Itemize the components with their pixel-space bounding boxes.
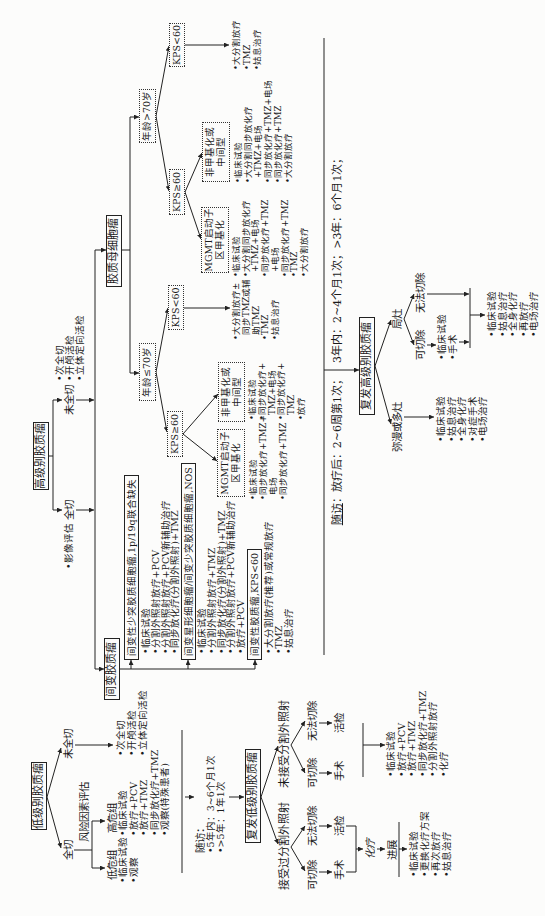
lg-non-gross-total-label: 未全切 bbox=[62, 729, 74, 759]
list-item-continuation: +TMZ+电场 bbox=[253, 80, 263, 183]
lg-prior-rt-list: •临床试验 •更换化疗方案 •再次放疗 •姑息治疗 bbox=[408, 811, 452, 877]
list-item: •临床试验 bbox=[248, 415, 258, 500]
hg-focal-label: 局灶 bbox=[391, 309, 403, 329]
hg-follow-up-text-a: ：放疗后：2~6周第1次； bbox=[331, 374, 344, 503]
lg-no-prior-rt-surgery: 手术 bbox=[333, 761, 345, 781]
list-item: •立体定向活检 bbox=[137, 690, 148, 756]
anaplastic-group-2-list: •临床试验 •分割外照射放疗+TMZ •同步放化疗(分割外照射)+TMZ •分割… bbox=[197, 500, 246, 654]
list-item: •电场治疗 bbox=[529, 291, 540, 337]
list-item: •手术 bbox=[448, 314, 459, 360]
gt70-kps-lt60-list: •大分割放疗 •TMZ •姑息治疗 bbox=[231, 20, 263, 70]
hg-diffuse-list: •临床试验 •姑息治疗 •全身化疗 •对症手术 •电场治疗 bbox=[436, 396, 489, 442]
hg-diffuse-label: 弥漫或多灶 bbox=[391, 402, 403, 452]
glioma-treatment-flowchart: 低级别胶质瘤 全切 未全切 风险因素评估 低危组 •临床试验 •观察 高危组 •… bbox=[0, 0, 545, 916]
list-item: •同步放化疗+TMZ+电场 bbox=[263, 80, 273, 183]
list-item: •同步放化疗+TMZ bbox=[278, 415, 288, 500]
hg-follow-up-text-b: 3年内：2~4个月1次；>3年：6个月1次； bbox=[331, 153, 344, 363]
list-item: •放疗+TMZ bbox=[139, 750, 150, 836]
gt70-mgmt-methylated-node: MGMT启动子 区甲基化 bbox=[201, 207, 229, 273]
list-item: •临床试验 bbox=[233, 80, 243, 183]
lg-risk-assessment-label: 风险因素评估 bbox=[78, 782, 90, 842]
anaplastic-group-3-list: •大分割放疗(推荐)或常规放疗 •TMZ •姑息治疗 bbox=[264, 521, 294, 654]
lg-no-prior-rt-unresectable: 无法切除 bbox=[306, 701, 318, 741]
hg-follow-up-part-a: 随访：放疗后：2~6周第1次； bbox=[331, 374, 344, 525]
list-item-continuation: 电场 bbox=[268, 415, 278, 500]
lg-high-risk-list: •临床试验 •放疗+PCV •放疗+TMZ •同步放化疗+TMZ •观察(特殊患… bbox=[118, 750, 171, 836]
hg-focal-list: •临床试验 •姑息治疗 •全身化疗 •再放疗 •电场治疗 bbox=[487, 291, 540, 337]
node-line: 中间型 bbox=[215, 123, 226, 181]
lg-prior-rt-chemo: 化疗 bbox=[364, 839, 376, 859]
lg-gross-total-label: 全切 bbox=[62, 840, 74, 860]
list-item: •姑息治疗 bbox=[252, 20, 263, 70]
hg-focal-unresectable: 无法切除 bbox=[414, 273, 426, 313]
list-item: •临床试验 bbox=[436, 396, 447, 442]
list-item: •同步放化疗(分割外照射)+TMZ bbox=[170, 500, 180, 654]
lg-prior-rt-biopsy: 活检 bbox=[333, 816, 345, 836]
gt70-unmethylated-list: •临床试验 •大分割同步放化疗 +TMZ+电场 •同步放化疗+TMZ+电场 •同… bbox=[233, 80, 293, 183]
le70-unmethylated-node: 非甲基化或 中间型 bbox=[218, 362, 245, 422]
le70-kps-lt60-list: •大分割放疗± 同步TMZ或辅 助TMZ •TMZ •姑息治疗 bbox=[232, 279, 281, 340]
list-item: •放疗+TMZ bbox=[407, 691, 418, 777]
le70-kps-ge60-node: KPS≥60 bbox=[167, 411, 183, 457]
recurrent-low-grade-title: 复发低级别胶质瘤 bbox=[245, 749, 261, 843]
list-item: •放疗+PCV bbox=[236, 500, 246, 654]
lg-no-prior-rt-resectable: 可切除 bbox=[306, 758, 318, 788]
list-item: •再次放疗 bbox=[430, 811, 441, 877]
gt70-kps-lt60-node: KPS<60 bbox=[169, 23, 185, 67]
le70-unmethylated-list: •临床试验 •同步放化疗+ TMZ+电场 •同步放化疗+ TMZ •放疗 bbox=[248, 363, 307, 420]
list-item: •临床试验 bbox=[437, 314, 448, 360]
list-item: •观察 bbox=[129, 837, 140, 883]
lg-prior-rt-progression: 进展 bbox=[386, 840, 398, 860]
node-line: MGMT启动子 bbox=[203, 208, 214, 272]
lg-prior-rt-surgery: 手术 bbox=[333, 860, 345, 880]
list-item: •电场治疗 bbox=[478, 396, 489, 442]
node-line: 非甲基化或 bbox=[204, 123, 215, 181]
age-le70-node: 年龄≤70岁 bbox=[139, 343, 156, 401]
list-item: •开颅活检 bbox=[126, 690, 137, 756]
hg-non-gross-total-list: •次全切 •开颅活检 •立体定向活检 bbox=[55, 315, 85, 381]
list-item: •大分割放疗 bbox=[231, 20, 242, 70]
lg-prior-rt-resectable: 可切除 bbox=[306, 860, 318, 890]
lg-follow-up-list: •5年内：3~6个月1次 •>5年：1年1次 bbox=[206, 755, 226, 853]
anaplastic-group-2-title: 间变星形细胞瘤/间变少突胶质细胞瘤,NOS bbox=[181, 463, 196, 660]
list-item: •临床试验 bbox=[487, 291, 498, 337]
list-item: •临床试验 bbox=[118, 750, 129, 836]
anaplastic-group-1-list: •临床试验 •分割外照射放疗+PCV •分割外照射放疗+PCV新辅助治疗 •同步… bbox=[141, 500, 180, 654]
list-item: •临床试验 bbox=[118, 837, 129, 883]
anaplastic-glioma-title: 间变胶质瘤 bbox=[104, 638, 120, 700]
list-item: •同步放化疗+TMZ bbox=[273, 80, 283, 183]
list-item: •立体定向活检 bbox=[75, 315, 85, 381]
high-grade-glioma-title: 高级别胶质瘤 bbox=[33, 422, 49, 490]
list-item: •次全切 bbox=[115, 690, 126, 756]
lg-no-prior-rt-label: 未接受分割外照射 bbox=[279, 700, 291, 788]
lg-no-prior-rt-list: •临床试验 •放疗+PCV •放疗+TMZ •同步放化疗+TMZ •分割外照射放… bbox=[386, 691, 449, 777]
recurrent-high-grade-title: 复发高级别胶质瘤 bbox=[359, 317, 375, 415]
list-item: •全身化疗 bbox=[457, 396, 468, 442]
list-item: •临床试验 bbox=[408, 811, 419, 877]
list-item: •大分割放疗 bbox=[283, 80, 293, 183]
list-item: •观察(特殊患者) bbox=[160, 750, 171, 836]
low-grade-connectors bbox=[47, 721, 407, 877]
hg-imaging-note: •影像评估 bbox=[64, 523, 74, 569]
le70-mgmt-methylated-node: MGMT启动子 区甲基化 bbox=[217, 429, 245, 497]
list-item: •全身化疗 bbox=[508, 291, 519, 337]
list-item: •分割外照射放疗 bbox=[428, 691, 439, 777]
list-item: •临床试验 bbox=[386, 691, 397, 777]
anaplastic-group-1-title: 间变性少突胶质细胞瘤,1p/19q联合缺失 bbox=[124, 475, 139, 660]
lg-no-prior-rt-biopsy: 活检 bbox=[333, 713, 345, 733]
list-item: •姑息治疗 bbox=[271, 279, 281, 340]
hg-focal-resectable-list: •临床试验 •手术 bbox=[437, 314, 458, 360]
hg-follow-up-label: 随访 bbox=[331, 503, 344, 525]
hg-non-gross-total-label: 未全切 bbox=[63, 385, 75, 415]
lg-prior-rt-unresectable: 无法切除 bbox=[306, 806, 318, 846]
glioblastoma-title: 胶质母细胞瘤 bbox=[106, 215, 122, 287]
lg-non-gross-total-list: •次全切 •开颅活检 •立体定向活检 bbox=[115, 690, 148, 756]
low-grade-glioma-title: 低级别胶质瘤 bbox=[31, 762, 47, 830]
anaplastic-group-3-title: 间变性胶质瘤,KPS<60 bbox=[247, 549, 262, 660]
node-line: 中间型 bbox=[231, 363, 242, 421]
list-item: •更换化疗方案 bbox=[419, 811, 430, 877]
list-item: •姑息治疗 bbox=[441, 811, 452, 877]
list-item: •大分割放疗 bbox=[300, 200, 310, 277]
list-item: •同步放化疗+TMZ+ bbox=[258, 415, 268, 500]
node-line: 区甲基化 bbox=[230, 430, 241, 496]
